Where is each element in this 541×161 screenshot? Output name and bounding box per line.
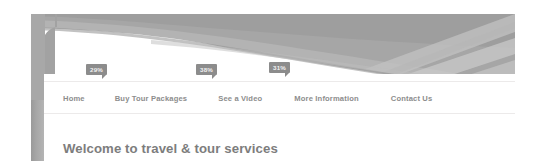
nav-item-buy-tour-packages[interactable]: Buy Tour Packages [115, 95, 187, 103]
nav-list: Home Buy Tour Packages See a Video More … [44, 82, 432, 115]
nav-item-home[interactable]: Home [63, 95, 85, 103]
page-root: Home Buy Tour Packages See a Video More … [0, 0, 541, 161]
nav-item-see-a-video[interactable]: See a Video [218, 95, 262, 103]
main-navigation: Home Buy Tour Packages See a Video More … [44, 81, 515, 114]
nav-item-contact-us[interactable]: Contact Us [391, 95, 433, 103]
page-heading: Welcome to travel & tour services [63, 142, 278, 155]
percentage-badge-3[interactable]: 31% [269, 62, 290, 73]
percentage-badge-2[interactable]: 38% [196, 64, 217, 75]
nav-item-more-information[interactable]: More Information [294, 95, 358, 103]
percentage-badge-1[interactable]: 29% [86, 64, 107, 75]
